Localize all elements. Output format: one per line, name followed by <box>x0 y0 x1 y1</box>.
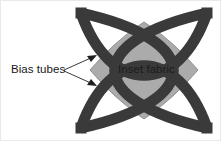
diagram-figure: Bias tubes Inset fabric <box>0 0 221 141</box>
leader-line-lower <box>64 71 93 84</box>
inset-fabric-label: Inset fabric <box>118 63 175 76</box>
bias-tubes-leader-lines <box>64 57 93 84</box>
leader-line-upper <box>64 57 93 70</box>
bias-tubes-label: Bias tubes <box>11 63 65 76</box>
